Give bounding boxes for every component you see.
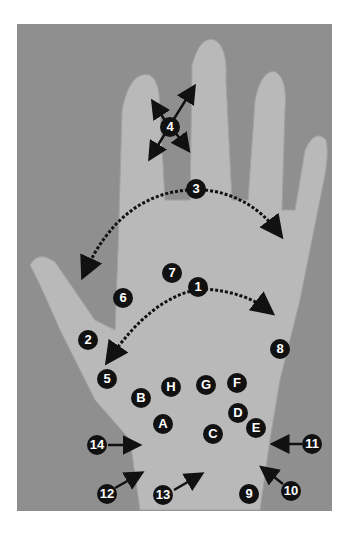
callout-label-D: D — [228, 403, 248, 423]
callout-label-H: H — [161, 377, 181, 397]
callout-label-2: 2 — [78, 330, 98, 350]
callout-label-F: F — [227, 373, 247, 393]
callout-label-5: 5 — [97, 369, 117, 389]
callout-label-8: 8 — [270, 339, 290, 359]
callout-label-12: 12 — [97, 484, 117, 504]
callout-label-11: 11 — [302, 434, 322, 454]
callout-label-A: A — [153, 414, 173, 434]
callout-label-C: C — [203, 424, 223, 444]
callout-label-9: 9 — [239, 484, 259, 504]
callout-label-13: 13 — [153, 485, 173, 505]
callout-label-4: 4 — [160, 117, 180, 137]
callout-label-6: 6 — [113, 288, 133, 308]
callout-label-E: E — [246, 418, 266, 438]
callout-label-B: B — [131, 388, 151, 408]
callout-label-7: 7 — [162, 263, 182, 283]
callout-label-1: 1 — [188, 277, 208, 297]
callout-label-G: G — [196, 375, 216, 395]
callout-label-10: 10 — [281, 481, 301, 501]
callout-label-14: 14 — [87, 435, 107, 455]
callout-label-3: 3 — [186, 179, 206, 199]
